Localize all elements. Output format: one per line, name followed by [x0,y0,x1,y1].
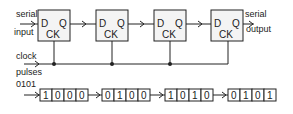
svg-text:1: 1 [43,90,49,101]
clock-label: pulses [16,67,43,77]
svg-text:1: 1 [192,90,198,101]
flip-flop-1: D Q CK [38,10,70,41]
clock-label: clock [16,51,37,61]
svg-text:0: 0 [55,90,61,101]
svg-text:0: 0 [105,90,111,101]
serial-input-label: input [14,27,34,37]
register-state-2: 0 1 0 0 [102,89,150,101]
svg-text:Q: Q [232,18,240,29]
svg-text:D: D [99,18,106,29]
svg-text:Q: Q [175,18,183,29]
svg-text:0: 0 [180,90,186,101]
svg-text:1: 1 [117,90,123,101]
svg-text:Q: Q [117,18,125,29]
svg-text:D: D [41,18,48,29]
svg-text:CK: CK [162,29,176,40]
svg-text:Q: Q [59,18,67,29]
input-word-label: 0101 [16,79,36,89]
serial-output-label: output [246,24,272,34]
flip-flop-3: D Q CK [154,10,186,41]
svg-text:CK: CK [46,29,60,40]
flip-flop-2: D Q CK [96,10,128,41]
svg-text:0: 0 [204,90,210,101]
serial-output-label: serial [245,9,267,19]
shift-register-diagram: D Q CK D Q CK D Q CK D Q CK serial input… [0,0,293,114]
svg-text:CK: CK [104,29,118,40]
svg-text:0: 0 [79,90,85,101]
register-state-1: 1 0 0 0 [40,89,88,101]
svg-text:0: 0 [67,90,73,101]
svg-text:1: 1 [267,90,273,101]
register-state-4: 0 1 0 1 [228,89,276,101]
svg-text:D: D [157,18,164,29]
flip-flop-4: D Q CK [211,10,243,41]
svg-text:0: 0 [255,90,261,101]
svg-text:CK: CK [219,29,233,40]
register-state-3: 1 0 1 0 [165,89,213,101]
svg-text:1: 1 [168,90,174,101]
svg-text:0: 0 [141,90,147,101]
serial-input-label: serial [16,9,38,19]
svg-text:0: 0 [231,90,237,101]
svg-text:D: D [214,18,221,29]
svg-text:0: 0 [129,90,135,101]
svg-text:1: 1 [243,90,249,101]
